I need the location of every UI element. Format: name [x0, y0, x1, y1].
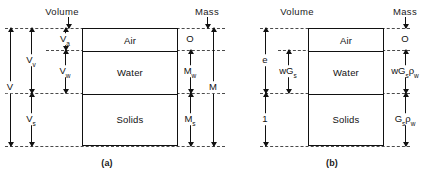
label-text: V [7, 81, 13, 92]
arrow-head-up-icon [263, 27, 269, 32]
label-text: e [262, 54, 267, 65]
label-subscript: w [411, 121, 416, 128]
dimension-label-solids-volume-a: Vs [25, 113, 38, 125]
label-subscript: s [33, 121, 36, 128]
arrow-head-down-icon [403, 142, 409, 147]
dimension-label-solids-volume-b: 1 [261, 113, 269, 125]
arrow-head-up-icon [403, 92, 409, 97]
arrow-head-up-icon [403, 49, 409, 54]
mass-header-arrow-a [207, 17, 208, 28]
arrow-head-up-icon [286, 49, 292, 54]
phase-label-air: Air [124, 35, 136, 46]
figure-caption-a: (a) [101, 158, 113, 168]
arrow-head-up-icon [211, 27, 217, 32]
arrow-head-down-icon [63, 89, 69, 94]
mass-label-total-a: M [208, 81, 219, 93]
label-subscript: a [66, 41, 70, 48]
arrow-head-up-icon [263, 92, 269, 97]
panel-a-mass-header: Mass [195, 6, 219, 17]
panel-a: Volume Mass Air Water Solids [0, 0, 232, 177]
arrow-head-down-icon [211, 142, 217, 147]
label-subscript: w [66, 73, 71, 80]
dimension-label-void-ratio-b: e [261, 54, 269, 66]
mass-label-air-b: O [400, 33, 410, 45]
label-subscript: v [33, 62, 36, 69]
phase-label-air: Air [340, 35, 352, 46]
label-subscript: w [414, 73, 419, 80]
phase-band-solids-a: Solids [83, 94, 177, 144]
arrow-head-up-icon [188, 49, 194, 54]
phase-label-solids: Solids [332, 114, 359, 125]
phase-band-solids-b: Solids [309, 94, 383, 144]
arrow-head-down-icon [8, 142, 14, 147]
dimension-label-air-volume-a: Va [59, 33, 72, 45]
dimension-label-voids-volume-a: Vv [25, 54, 38, 66]
arrow-head-down-icon [29, 142, 35, 147]
mass-label-solids-a: Ms [183, 113, 197, 125]
arrow-head-up-icon [63, 49, 69, 54]
mass-label-water-a: Mw [182, 65, 198, 77]
arrow-head-down-icon [263, 142, 269, 147]
label-subscript: s [294, 73, 297, 80]
phase-box-a: Air Water Solids [82, 28, 178, 146]
phase-band-air-a: Air [83, 29, 177, 51]
phase-label-water: Water [333, 67, 359, 78]
arrow-head-up-icon [8, 27, 14, 32]
arrow-head-down-icon [286, 89, 292, 94]
label-text: M [209, 81, 217, 92]
phase-label-solids: Solids [116, 114, 143, 125]
arrow-head-up-icon [29, 27, 35, 32]
label-text: wG [391, 65, 405, 76]
mass-label-water-b: wGsρw [390, 65, 421, 77]
arrow-head-up-icon [188, 92, 194, 97]
panel-b-mass-header: Mass [393, 6, 417, 17]
label-text: O [401, 33, 408, 44]
chain-line-bottom-b [260, 146, 410, 147]
label-text: wG [279, 65, 293, 76]
mass-label-solids-b: Gsρw [393, 113, 417, 125]
label-text: G [395, 113, 402, 124]
dimension-label-total-volume-a: V [5, 81, 14, 93]
mass-label-air-a: O [185, 33, 195, 45]
mass-header-arrow-b [405, 17, 406, 28]
label-text: V [26, 54, 32, 65]
panel-b-volume-header: Volume [280, 6, 314, 17]
label-text: 1 [262, 113, 267, 124]
arrow-head-up-icon [63, 27, 69, 32]
arrow-head-down-icon [188, 142, 194, 147]
label-subscript: s [402, 121, 405, 128]
dimension-label-water-volume-b: wGs [278, 65, 299, 77]
soil-phase-diagram-figure: Volume Mass Air Water Solids [0, 0, 428, 177]
label-subscript: w [192, 73, 197, 80]
dimension-label-water-volume-a: Vw [58, 65, 72, 77]
phase-band-water-a: Water [83, 51, 177, 94]
label-rho: ρ [405, 113, 410, 124]
label-text: V [60, 33, 66, 44]
figure-caption-b: (b) [326, 158, 338, 168]
phase-band-air-b: Air [309, 29, 383, 51]
panel-b: Volume Mass Air Water Solids e [232, 0, 428, 177]
phase-band-water-b: Water [309, 51, 383, 94]
panel-a-volume-header: Volume [45, 6, 79, 17]
phase-label-water: Water [117, 67, 143, 78]
label-text: V [26, 113, 32, 124]
label-text: V [59, 65, 65, 76]
label-subscript: s [405, 73, 408, 80]
label-subscript: s [192, 121, 195, 128]
phase-box-b: Air Water Solids [308, 28, 384, 146]
arrow-head-down-icon [403, 24, 409, 29]
arrow-head-up-icon [29, 92, 35, 97]
label-text: O [186, 33, 193, 44]
